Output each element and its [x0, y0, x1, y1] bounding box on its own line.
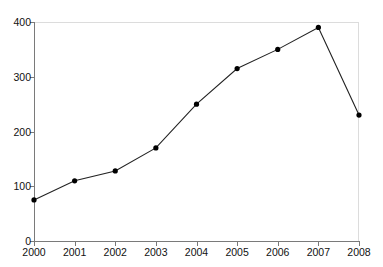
data-point-marker — [235, 66, 240, 71]
data-point-marker — [194, 102, 199, 107]
data-series-layer — [0, 0, 383, 267]
data-point-marker — [275, 47, 280, 52]
data-point-marker — [316, 25, 321, 30]
chart-screenshot: 0100200300400 20002001200220032004200520… — [0, 0, 383, 267]
data-point-marker — [31, 197, 36, 202]
series-line — [34, 27, 359, 199]
line-chart: 0100200300400 20002001200220032004200520… — [0, 0, 383, 267]
data-point-marker — [356, 112, 361, 117]
data-point-marker — [113, 168, 118, 173]
data-point-marker — [72, 178, 77, 183]
data-point-marker — [153, 145, 158, 150]
